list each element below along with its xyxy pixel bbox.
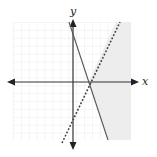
x-axis-right-arrow-icon [131,79,139,86]
inequality-graph: x y [0,0,157,157]
y-axis-bottom-arrow-icon [70,142,77,150]
y-axis-label: y [69,5,77,18]
x-axis-label: x [142,75,149,88]
x-axis-left-arrow-icon [7,79,15,86]
